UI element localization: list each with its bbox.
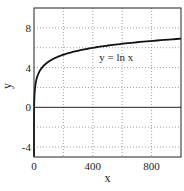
y-tick-label: 4 <box>26 62 32 74</box>
ln-chart: 0400800 -4048 x y y = ln x <box>0 0 184 191</box>
y-tick-label: -4 <box>22 141 32 153</box>
y-axis-label: y <box>0 83 14 89</box>
y-tick-label: 0 <box>26 101 32 113</box>
curve-annotation: y = ln x <box>99 51 134 63</box>
x-tick-label: 400 <box>85 160 102 172</box>
x-tick-label: 800 <box>143 160 160 172</box>
x-axis-label: x <box>105 171 111 185</box>
x-tick-label: 0 <box>31 160 37 172</box>
x-tick-labels: 0400800 <box>31 160 160 172</box>
y-tick-labels: -4048 <box>22 22 32 153</box>
grid-lines <box>34 8 181 157</box>
plot-frame <box>34 8 181 157</box>
y-tick-label: 8 <box>26 22 32 34</box>
